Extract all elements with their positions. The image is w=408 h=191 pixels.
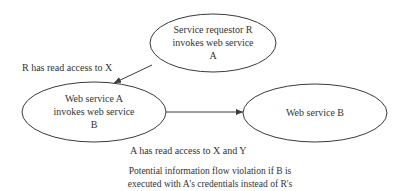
caption-line-1: Potential information flow violation if … [100, 165, 320, 178]
arrow-requestor-to-a [114, 65, 152, 83]
edge-label-a-to-b: A has read access to X and Y [130, 144, 247, 157]
node-service-a-line-2: invokes web service [34, 105, 154, 118]
node-service-a-line-1: Web service A [34, 92, 154, 105]
node-requestor-line-2: invokes web service [153, 36, 273, 49]
caption-line-2: executed with A's credentials instead of… [100, 178, 320, 191]
node-requestor-label: Service requestor R invokes web service … [153, 23, 273, 62]
edge-label-requestor-to-a: R has read access to X [22, 61, 112, 74]
caption: Potential information flow violation if … [100, 165, 320, 191]
node-service-a-line-3: B [34, 118, 154, 131]
node-requestor-line-3: A [153, 49, 273, 62]
node-requestor-line-1: Service requestor R [153, 23, 273, 36]
node-service-b-label: Web service B [255, 106, 375, 119]
node-service-b-line-1: Web service B [255, 106, 375, 119]
node-service-a-label: Web service A invokes web service B [34, 92, 154, 131]
